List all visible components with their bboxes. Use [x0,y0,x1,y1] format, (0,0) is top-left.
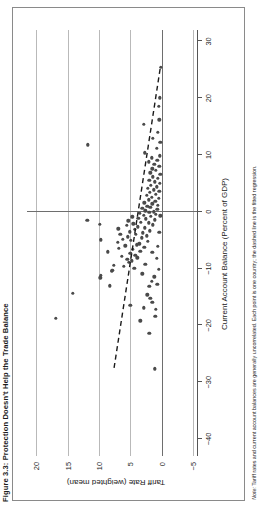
scatter-point [155,146,158,149]
scatter-point [152,162,155,165]
y-axis-title: Tariff Rate (weighted mean) [66,478,164,487]
gridline-y [99,30,100,456]
scatter-point [149,206,152,209]
scatter-point [146,240,149,243]
scatter-point [137,216,140,219]
scatter-point [129,303,132,306]
scatter-point [149,183,152,186]
scatter-point [134,233,137,236]
figure-note-label: Note: [251,487,257,500]
figure-page: Figure 3.3: Protection Doesn't Help the … [0,0,274,506]
scatter-point [99,238,102,241]
scatter-point [153,367,156,370]
scatter-point [54,316,57,319]
scatter-point [151,202,154,205]
scatter-point [157,231,160,234]
x-tick-mark [198,40,202,41]
x-axis-title: Current Account Balance (Percent of GDP) [220,8,229,500]
scatter-point [141,272,144,275]
x-tick-mark [198,381,202,382]
scatter-point [147,284,150,287]
scatter-point [136,256,139,259]
scatter-point [156,282,159,285]
scatter-point [141,231,144,234]
scatter-point [157,190,160,193]
scatter-point [143,226,146,229]
scatter-point [131,248,134,251]
scatter-point [120,254,123,257]
gridline-y [68,30,69,456]
scatter-point [85,219,88,222]
scatter-point [151,300,154,303]
scatter-point [117,246,120,249]
scatter-point [156,177,159,180]
scatter-point [98,223,101,226]
scatter-point [157,165,160,168]
x-tick-mark [198,97,202,98]
chart-frame: −505101520−40−30−20−100102030 Current Ac… [12,7,245,501]
y-tick-label: 20 [32,462,41,482]
x-tick-label: 0 [204,210,213,214]
figure-note-text: Tariff rates and current account balance… [251,165,257,485]
scatter-point [146,187,149,190]
scatter-point [157,104,160,107]
scatter-point [139,319,142,322]
scatter-point [71,291,74,294]
x-tick-label: −40 [204,433,213,446]
scatter-point [130,259,133,262]
figure-note: Note: Tariff rates and current account b… [250,8,258,500]
scatter-point [142,245,145,248]
zero-line-horizontal [162,30,163,456]
gridline-y [193,30,194,456]
x-tick-label: −10 [204,262,213,275]
scatter-point [110,269,113,272]
scatter-point [112,263,115,266]
scatter-point [156,245,159,248]
scatter-point [150,279,153,282]
scatter-point [121,237,124,240]
scatter-point [145,194,148,197]
x-tick-mark [198,438,202,439]
zero-line-vertical [27,211,198,212]
x-tick-label: 10 [204,151,213,159]
scatter-point [150,156,153,159]
scatter-point [108,284,111,287]
scatter-point [132,222,135,225]
scatter-point [133,228,136,231]
scatter-point [124,244,127,247]
scatter-point [119,232,122,235]
scatter-point [154,169,157,172]
scatter-point [154,212,157,215]
scatter-point [140,236,143,239]
scatter-point [147,221,150,224]
plot-area: −505101520−40−30−20−100102030 [27,30,198,456]
scatter-point [154,308,157,311]
scatter-point [131,215,134,218]
scatter-point [155,257,158,260]
scatter-point [151,223,154,226]
scatter-point [148,229,151,232]
scatter-point [142,201,145,204]
scatter-point [106,250,109,253]
scatter-point [144,262,147,265]
scatter-point [117,227,120,230]
scatter-point [154,192,157,195]
scatter-point [151,175,154,178]
scatter-point [149,215,152,218]
x-axis-line [197,30,198,456]
x-tick-label: −30 [204,376,213,389]
y-tick-label: −5 [188,462,197,482]
scatter-point [157,267,160,270]
scatter-point [86,143,89,146]
scatter-point [149,171,152,174]
scatter-point [154,315,157,318]
x-tick-mark [198,268,202,269]
figure-title: Figure 3.3: Protection Doesn't Help the … [1,303,10,502]
scatter-point [142,306,145,309]
scatter-point [147,160,150,163]
x-tick-mark [198,211,202,212]
scatter-point [147,178,150,181]
scatter-point [148,191,151,194]
gridline-y [36,30,37,456]
scatter-point [129,238,132,241]
